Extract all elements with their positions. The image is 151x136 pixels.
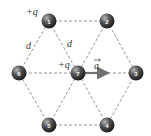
edge-5-7: [49, 73, 78, 125]
particle-6: 6: [12, 66, 27, 81]
edge-2-7: [78, 21, 107, 73]
hexagon-charge-diagram: 1234567 +q +q d d a: [0, 0, 151, 136]
particle-2: 2: [100, 14, 115, 29]
charge-label-1: +q: [26, 6, 38, 17]
particle-3: 3: [129, 66, 144, 81]
distance-label-left: d: [26, 40, 32, 51]
edge-2-3: [107, 21, 136, 73]
acceleration-label: a: [94, 60, 99, 71]
distance-label-right: d: [67, 38, 73, 49]
charge-label-7: +q: [58, 59, 70, 70]
edge-5-6: [19, 73, 49, 125]
edge-6-1: [19, 21, 49, 73]
particle-1: 1: [42, 14, 57, 29]
edge-4-7: [78, 73, 107, 125]
particle-5: 5: [42, 118, 57, 133]
particle-4: 4: [100, 118, 115, 133]
edge-3-4: [107, 73, 136, 125]
particle-7: 7: [71, 66, 86, 81]
